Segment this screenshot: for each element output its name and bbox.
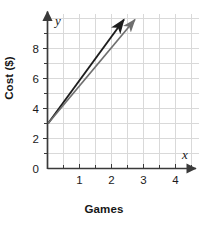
x-axis-symbol: x bbox=[181, 147, 188, 162]
x-tick-label-1: 1 bbox=[76, 174, 82, 186]
x-axis bbox=[48, 164, 197, 169]
x-tick-label-4: 4 bbox=[172, 174, 179, 186]
origin-tick-label: 0 bbox=[33, 163, 39, 175]
x-tick-label-3: 3 bbox=[140, 174, 146, 186]
x-tick-label-2: 2 bbox=[108, 174, 114, 186]
y-tick-label-4: 4 bbox=[33, 103, 40, 115]
y-axis-title: Cost ($) bbox=[3, 48, 15, 108]
chart-figure: y x 2 4 6 8 0 1 2 3 4 Cost ($) Games bbox=[0, 0, 208, 225]
series-line-shallower bbox=[48, 20, 135, 124]
x-axis-title: Games bbox=[0, 203, 208, 215]
y-axis bbox=[43, 12, 48, 170]
grid-horizontal bbox=[47, 19, 199, 154]
y-tick-label-8: 8 bbox=[33, 43, 39, 55]
y-tick-label-6: 6 bbox=[33, 73, 39, 85]
coordinate-plane: y x 2 4 6 8 0 1 2 3 4 bbox=[0, 0, 208, 225]
y-tick-label-2: 2 bbox=[33, 133, 39, 145]
series-line-steeper bbox=[48, 20, 124, 124]
y-axis-symbol: y bbox=[53, 13, 61, 28]
